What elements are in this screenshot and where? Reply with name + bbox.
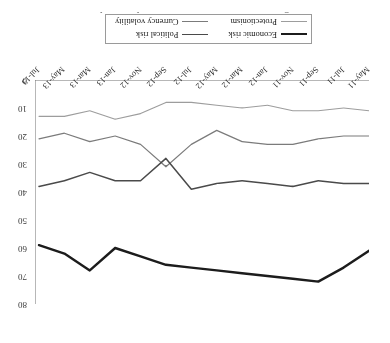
y-axis-tick-label: 70 xyxy=(5,272,27,282)
chart-figure: and most dangerous risks. Protectionism … xyxy=(0,0,390,343)
legend-item-protectionism: Protectionism xyxy=(209,17,308,26)
legend-label: Currency volatility xyxy=(115,17,179,26)
series-line-political-risk xyxy=(39,158,369,189)
legend-label: Protectionism xyxy=(230,17,277,26)
y-axis-tick-label: 20 xyxy=(5,132,27,142)
chart-legend: Economic risk Political risk Protectioni… xyxy=(105,14,312,44)
legend-item-economic-risk: Economic risk xyxy=(209,30,308,39)
series-line-currency-volatility xyxy=(39,130,369,166)
y-axis-tick-label: 60 xyxy=(5,244,27,254)
legend-line-swatch-icon xyxy=(281,21,307,22)
legend-item-political-risk: Political risk xyxy=(110,30,209,39)
legend-item-currency-volatility: Currency volatility xyxy=(110,17,209,26)
legend-label: Political risk xyxy=(136,30,179,39)
rotated-figure-wrapper: and most dangerous risks. Protectionism … xyxy=(0,0,390,343)
legend-line-swatch-icon xyxy=(183,34,209,35)
legend-row-1: Economic risk Political risk xyxy=(110,28,307,41)
legend-line-swatch-icon xyxy=(183,21,209,22)
y-axis-tick-label: 80 xyxy=(5,300,27,310)
series-line-protectionism xyxy=(39,102,369,119)
legend-label: Economic risk xyxy=(228,30,277,39)
y-axis-tick-label: 30 xyxy=(5,160,27,170)
y-axis-tick-label: 40 xyxy=(5,188,27,198)
caption-strip: and most dangerous risks. Protectionism … xyxy=(0,0,390,13)
legend-line-swatch-icon xyxy=(281,34,307,36)
legend-row-2: Protectionism Currency volatility xyxy=(110,15,307,28)
y-axis-tick-label: 10 xyxy=(5,104,27,114)
series-line-economic-risk xyxy=(39,245,369,281)
chart-svg xyxy=(35,80,369,304)
plot-area: 01020304050607080 May-11Jul-11Sep-11Nov-… xyxy=(35,80,369,304)
y-axis-tick-label: 50 xyxy=(5,216,27,226)
figure-caption: and most dangerous risks. Protectionism … xyxy=(0,12,390,13)
